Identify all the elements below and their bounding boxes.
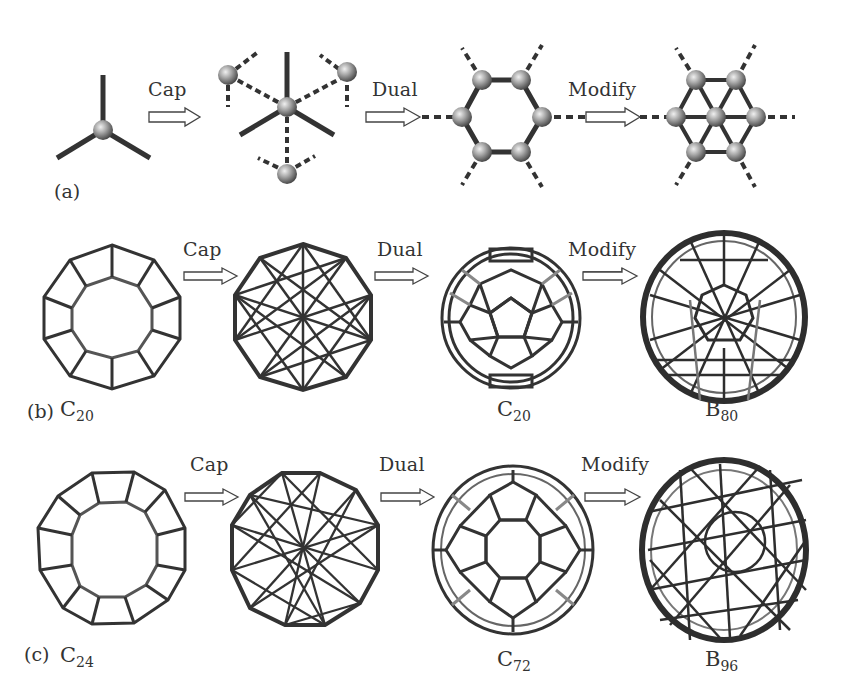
formula-label: C20 <box>497 397 531 424</box>
formula-label: C20 <box>60 397 94 424</box>
row-c: Cap Dual Modify (c) C24 C72 B96 <box>0 440 845 695</box>
operation-label-cap: Cap <box>148 78 187 100</box>
formula-label: C24 <box>60 643 94 670</box>
stage-capped-polyhedron-c <box>232 473 378 625</box>
stage-dual-cage-c <box>433 466 593 634</box>
arrow-icon <box>381 489 434 505</box>
row-a-graphics <box>0 0 845 200</box>
stage-capped-polyhedron-b <box>235 244 371 390</box>
stage-filled-hexagon <box>640 45 795 187</box>
arrow-icon <box>149 108 200 126</box>
stage-hexagon-dual <box>422 45 585 187</box>
operation-label-dual: Dual <box>377 238 423 260</box>
operation-label-modify: Modify <box>568 238 636 260</box>
arrow-icon <box>586 108 640 126</box>
arrow-icon <box>184 268 237 284</box>
arrow-icon <box>583 268 637 284</box>
row-b: Cap Dual Modify (b) C20 C20 B80 <box>0 200 845 440</box>
stage-dual-cage-b <box>442 248 580 388</box>
atom-icon <box>93 120 113 140</box>
stage-boron-cage-c <box>642 460 806 640</box>
operation-label-dual: Dual <box>372 78 418 100</box>
arrow-icon <box>585 489 640 505</box>
stage-three-connected-vertex <box>57 75 150 158</box>
row-label-a: (a) <box>54 180 80 202</box>
formula-label: B80 <box>705 397 738 424</box>
operation-label-dual: Dual <box>379 453 425 475</box>
operation-label-modify: Modify <box>568 78 636 100</box>
operation-label-cap: Cap <box>183 238 222 260</box>
row-label-b: (b) <box>27 400 54 422</box>
stage-boron-cage-b <box>643 233 805 401</box>
formula-label: C72 <box>497 647 531 674</box>
formula-label: B96 <box>705 647 738 674</box>
row-a: Cap Dual Modify (a) <box>0 0 845 200</box>
stage-cage-c24 <box>38 472 185 624</box>
stage-capped-vertex <box>218 52 357 184</box>
operation-label-modify: Modify <box>581 453 649 475</box>
row-label-c: (c) <box>24 643 49 665</box>
stage-dodecahedron <box>44 245 180 389</box>
arrow-icon <box>366 108 420 126</box>
arrow-icon <box>185 489 238 505</box>
operation-label-cap: Cap <box>190 453 229 475</box>
arrow-icon <box>375 268 428 284</box>
